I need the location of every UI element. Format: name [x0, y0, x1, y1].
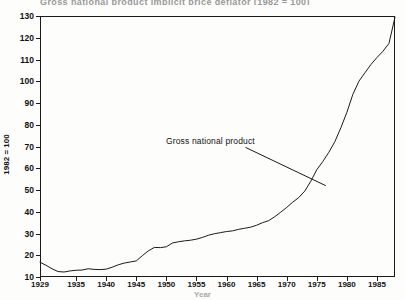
- series-annotation-label: Gross national product: [166, 136, 255, 146]
- x-axis-tick-label: 1935: [67, 280, 85, 289]
- x-axis-tick-mark: [227, 277, 228, 281]
- x-axis-tick-mark: [40, 277, 41, 281]
- x-axis-tick-label: 1950: [157, 280, 175, 289]
- x-axis-tick-mark: [106, 277, 107, 281]
- x-axis-tick-mark: [377, 277, 378, 281]
- y-axis-tick-label: 110: [6, 55, 34, 65]
- y-axis-tick-label: 130: [6, 11, 34, 21]
- x-axis-tick-label: 1965: [248, 280, 266, 289]
- chart-title: Gross national product implicit price de…: [40, 0, 340, 5]
- x-axis-tick-mark: [317, 277, 318, 281]
- chart-figure: Gross national product implicit price de…: [0, 0, 405, 300]
- x-axis-title: Year: [0, 290, 405, 299]
- data-series-line: [40, 16, 395, 277]
- x-axis-tick-mark: [347, 277, 348, 281]
- x-axis-tick-mark: [76, 277, 77, 281]
- x-axis-tick-label: 1945: [127, 280, 145, 289]
- x-axis-tick-label: 1980: [338, 280, 356, 289]
- x-axis-tick-label: 1940: [97, 280, 115, 289]
- x-axis-tick-mark: [136, 277, 137, 281]
- x-axis-tick-label: 1970: [278, 280, 296, 289]
- x-axis-tick-label: 1929: [31, 280, 49, 289]
- x-axis-tick-mark: [196, 277, 197, 281]
- x-axis-tick-mark: [257, 277, 258, 281]
- y-axis-title: 1982 = 100: [2, 123, 11, 187]
- x-axis-tick-label: 1960: [218, 280, 236, 289]
- x-axis-tick-mark: [287, 277, 288, 281]
- y-axis-tick-label: 90: [6, 98, 34, 108]
- y-axis-tick-label: 10: [6, 272, 34, 282]
- x-axis-tick-label: 1955: [188, 280, 206, 289]
- y-axis-tick-label: 50: [6, 185, 34, 195]
- x-axis-tick-label: 1975: [308, 280, 326, 289]
- y-axis-tick-label: 120: [6, 33, 34, 43]
- y-axis-tick-label: 40: [6, 207, 34, 217]
- x-axis-tick-mark: [166, 277, 167, 281]
- y-axis-tick-label: 20: [6, 250, 34, 260]
- y-axis-tick-label: 100: [6, 76, 34, 86]
- y-axis-tick-label: 30: [6, 229, 34, 239]
- x-axis-tick-label: 1985: [368, 280, 386, 289]
